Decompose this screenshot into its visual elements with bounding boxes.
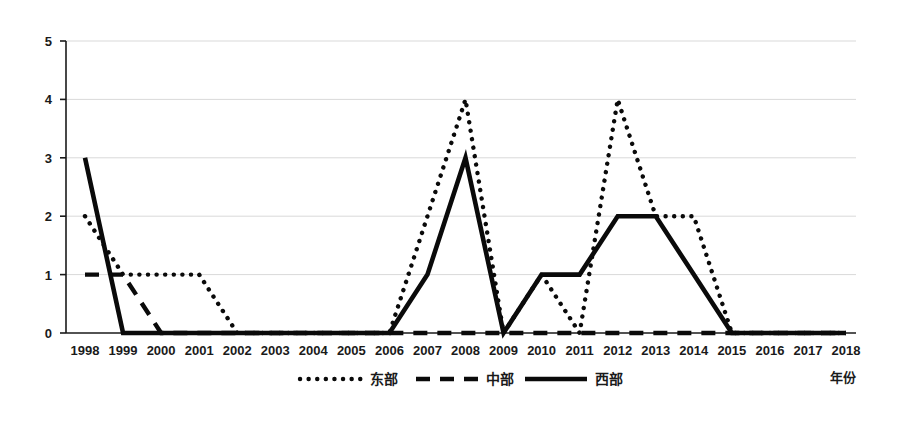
x-axis-tick-label: 2009	[489, 343, 518, 358]
x-axis-tick-label: 2013	[641, 343, 670, 358]
x-axis-tick-label: 2007	[413, 343, 442, 358]
x-axis-tick-label: 2011	[566, 343, 594, 358]
y-axis-tick-label: 0	[45, 326, 52, 341]
y-axis-tick-label: 1	[45, 268, 52, 283]
x-axis-tick-label: 2014	[679, 343, 709, 358]
y-axis-tick-label: 3	[45, 151, 52, 166]
x-axis-tick-label: 2001	[185, 343, 214, 358]
x-axis-tick-label: 2010	[527, 343, 556, 358]
chart-canvas: 543210 199819992000200120022003200420052…	[0, 0, 897, 421]
y-axis-tick-label: 4	[45, 92, 53, 107]
y-axis-tick-label: 2	[45, 209, 52, 224]
x-axis-tick-label: 2016	[755, 343, 784, 358]
x-axis-tick-label: 2002	[223, 343, 252, 358]
x-axis-tick-label: 2000	[147, 343, 176, 358]
legend-label: 西部	[595, 371, 623, 387]
legend-label: 中部	[486, 371, 514, 387]
x-axis-tick-label: 2003	[261, 343, 290, 358]
line-chart: 543210 199819992000200120022003200420052…	[0, 0, 897, 421]
x-axis-tick-label: 2012	[603, 343, 632, 358]
x-axis-tick-label: 1999	[109, 343, 138, 358]
x-axis-tick-label: 2017	[793, 343, 822, 358]
x-axis-tick-label: 2005	[337, 343, 366, 358]
x-axis-title: 年份	[830, 370, 857, 385]
x-axis-labels: 1998199920002001200220032004200520062007…	[71, 343, 861, 358]
x-axis-tick-label: 2008	[451, 343, 480, 358]
x-axis-tick-label: 2015	[717, 343, 746, 358]
x-axis-tick-label: 2006	[375, 343, 404, 358]
y-axis-tick-label: 5	[45, 34, 52, 49]
x-axis-tick-label: 2004	[299, 343, 329, 358]
x-axis-tick-label: 2018	[832, 343, 861, 358]
legend-label: 东部	[370, 371, 398, 387]
x-axis-tick-label: 1998	[71, 343, 100, 358]
